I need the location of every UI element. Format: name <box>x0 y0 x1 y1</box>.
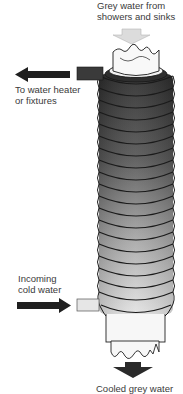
grey-water-inlet-label: Grey water from showers and sinks <box>97 0 175 22</box>
label-line: showers and sinks <box>97 11 175 22</box>
label-line: cold water <box>18 284 61 295</box>
inner-pipe-top <box>105 44 167 82</box>
label-line: Incoming <box>18 273 61 284</box>
hot-water-outlet-pipe <box>77 67 103 80</box>
cooled-water-out-arrow <box>113 362 153 378</box>
cold-water-inlet-label: Incoming cold water <box>18 273 61 295</box>
coil-body <box>98 74 175 316</box>
label-line: To water heater <box>15 84 80 95</box>
label-line: Grey water from <box>97 0 175 11</box>
label-line: Cooled grey water <box>96 383 173 394</box>
label-line: or fixtures <box>15 95 80 106</box>
inner-pipe-bottom <box>106 312 165 359</box>
cold-water-inlet-pipe <box>77 299 99 311</box>
to-heater-arrow <box>15 67 70 82</box>
cooled-water-outlet-label: Cooled grey water <box>96 383 173 394</box>
hot-water-outlet-label: To water heater or fixtures <box>15 84 80 106</box>
cold-water-in-arrow <box>17 298 71 313</box>
grey-water-in-arrow <box>113 29 150 44</box>
